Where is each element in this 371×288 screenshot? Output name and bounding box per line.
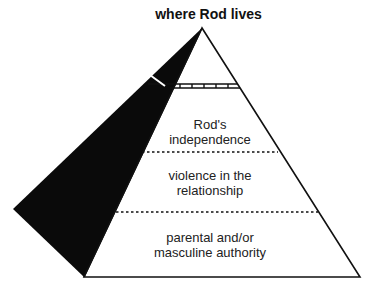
level-independence: Rod's independence <box>130 117 290 147</box>
level-violence: violence in the relationship <box>130 168 290 198</box>
level-authority: parental and/or masculine authority <box>130 230 290 260</box>
